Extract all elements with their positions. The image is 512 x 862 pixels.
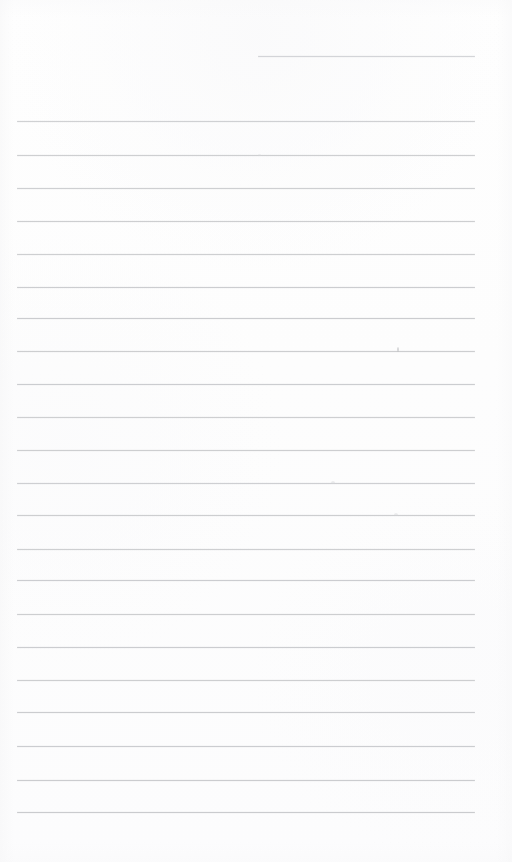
rule-ink <box>17 450 475 451</box>
ruled-line-8 <box>17 351 475 352</box>
writing-line-4[interactable] <box>17 190 475 220</box>
ruled-line-13 <box>17 515 475 516</box>
writing-line-17[interactable] <box>17 616 475 646</box>
writing-line-11[interactable] <box>17 419 475 449</box>
ruled-line-15 <box>17 580 475 581</box>
writing-line-9[interactable] <box>17 353 475 383</box>
rule-ink <box>17 188 475 189</box>
writing-line-18[interactable] <box>17 649 475 679</box>
rule-ink <box>17 780 475 781</box>
ruled-line-16 <box>17 614 475 615</box>
ruled-line-17 <box>17 647 475 648</box>
ruled-line-12 <box>17 483 475 484</box>
writing-line-16[interactable] <box>17 582 475 613</box>
rule-ink <box>17 483 475 484</box>
writing-line-22[interactable] <box>17 782 475 811</box>
writing-line-13[interactable] <box>17 485 475 514</box>
ruled-line-7 <box>17 318 475 319</box>
writing-line-2[interactable] <box>17 123 475 154</box>
rule-ink <box>258 56 475 57</box>
ruled-line-11 <box>17 450 475 451</box>
writing-line-6[interactable] <box>17 256 475 286</box>
rule-ink <box>17 712 475 713</box>
ruled-line-19 <box>17 712 475 713</box>
rule-ink <box>17 417 475 418</box>
header-rule-rule <box>258 56 475 57</box>
ruled-line-18 <box>17 680 475 681</box>
rule-ink <box>17 287 475 288</box>
rule-ink <box>17 318 475 319</box>
rule-ink <box>17 812 475 813</box>
rule-ink <box>17 580 475 581</box>
ruled-line-5 <box>17 254 475 255</box>
rule-ink <box>17 680 475 681</box>
writing-line-12[interactable] <box>17 452 475 482</box>
rule-ink <box>17 221 475 222</box>
rule-ink <box>17 515 475 516</box>
ruled-line-21 <box>17 780 475 781</box>
writing-line-19[interactable] <box>17 682 475 711</box>
rule-ink <box>17 614 475 615</box>
ruled-line-14 <box>17 549 475 550</box>
faint-spot-4 <box>258 154 261 156</box>
scanned-lined-page <box>0 0 512 862</box>
ruled-line-4 <box>17 221 475 222</box>
writing-line-1[interactable] <box>17 58 475 120</box>
writing-line-7[interactable] <box>17 289 475 317</box>
rule-ink <box>17 647 475 648</box>
rule-ink <box>17 549 475 550</box>
writing-line-10[interactable] <box>17 386 475 416</box>
writing-line-5[interactable] <box>17 223 475 253</box>
writing-line-21[interactable] <box>17 748 475 779</box>
rule-ink <box>17 384 475 385</box>
ruled-line-10 <box>17 417 475 418</box>
ruled-line-2 <box>17 155 475 156</box>
ruled-line-1 <box>17 121 475 122</box>
rule-ink <box>17 746 475 747</box>
rule-ink <box>17 155 475 156</box>
rule-ink <box>17 254 475 255</box>
ruled-line-3 <box>17 188 475 189</box>
rule-ink <box>17 121 475 122</box>
rule-halo <box>17 811 475 814</box>
writing-line-20[interactable] <box>17 714 475 745</box>
ruled-line-9 <box>17 384 475 385</box>
writing-line-15[interactable] <box>17 551 475 579</box>
writing-line-14[interactable] <box>17 517 475 548</box>
writing-line-3[interactable] <box>17 157 475 187</box>
ruled-line-6 <box>17 287 475 288</box>
rule-ink <box>17 351 475 352</box>
writing-line-8[interactable] <box>17 320 475 350</box>
ruled-line-20 <box>17 746 475 747</box>
ruled-line-22 <box>17 812 475 813</box>
